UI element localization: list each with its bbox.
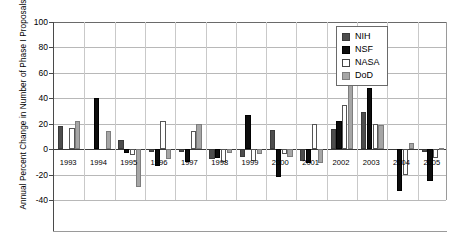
bar-nasa-2000 bbox=[282, 149, 287, 154]
legend-item-nih[interactable]: NIH bbox=[342, 30, 380, 43]
bar-group bbox=[84, 22, 114, 200]
bar-nsf-2003 bbox=[367, 88, 372, 149]
y-tick-mark bbox=[49, 47, 53, 48]
x-tick-label: 1997 bbox=[181, 158, 198, 167]
bar-nsf-1994 bbox=[94, 98, 99, 149]
x-tick-label: 2001 bbox=[302, 158, 319, 167]
bar-dod-1995 bbox=[136, 149, 141, 187]
legend-item-nasa[interactable]: NASA bbox=[342, 56, 380, 69]
bar-group bbox=[418, 22, 448, 200]
group-separator bbox=[327, 22, 328, 200]
x-tick-label: 1996 bbox=[151, 158, 168, 167]
x-tick-label: 1993 bbox=[60, 158, 77, 167]
x-tick-label: 1994 bbox=[90, 158, 107, 167]
legend-label: NASA bbox=[355, 58, 380, 67]
bar-dod-2000 bbox=[287, 149, 292, 157]
bar-dod-1993 bbox=[75, 121, 80, 149]
chart-left-rule bbox=[53, 200, 54, 231]
y-tick-mark bbox=[49, 98, 53, 99]
legend-swatch-nih-icon bbox=[342, 33, 350, 41]
bar-nasa-1996 bbox=[160, 121, 165, 149]
group-separator bbox=[145, 22, 146, 200]
bar-dod-2005 bbox=[439, 148, 444, 150]
bar-group bbox=[54, 22, 84, 200]
x-tick-label: 2005 bbox=[423, 158, 440, 167]
y-tick-mark bbox=[49, 22, 53, 23]
bar-dod-1997 bbox=[196, 124, 201, 149]
bar-dod-1998 bbox=[227, 149, 232, 153]
bar-group bbox=[266, 22, 296, 200]
x-tick-label: 2002 bbox=[332, 158, 349, 167]
bar-nih-1995 bbox=[118, 140, 123, 149]
bar-nasa-2005 bbox=[433, 149, 438, 158]
bar-group bbox=[206, 22, 236, 200]
bar-nasa-1995 bbox=[130, 149, 135, 155]
x-tick-label: 2000 bbox=[272, 158, 289, 167]
group-separator bbox=[296, 22, 297, 200]
bar-nih-1996 bbox=[149, 149, 154, 152]
y-axis-title: Annual Percent Change in Number of Phase… bbox=[19, 0, 28, 212]
bar-dod-1994 bbox=[106, 131, 111, 149]
bar-dod-1999 bbox=[257, 149, 262, 154]
legend-swatch-nsf-icon bbox=[342, 46, 350, 54]
x-tick-label: 2003 bbox=[363, 158, 380, 167]
y-tick-label: 40 bbox=[14, 93, 48, 103]
legend-label: DoD bbox=[355, 71, 373, 80]
legend-item-dod[interactable]: DoD bbox=[342, 69, 380, 82]
legend-swatch-dod-icon bbox=[342, 72, 350, 80]
group-separator bbox=[266, 22, 267, 200]
legend-item-nsf[interactable]: NSF bbox=[342, 43, 380, 56]
group-separator bbox=[175, 22, 176, 200]
bar-dod-2004 bbox=[409, 143, 414, 149]
y-tick-mark bbox=[49, 73, 53, 74]
group-separator bbox=[206, 22, 207, 200]
bar-nih-2000 bbox=[270, 130, 275, 149]
bar-nih-2003 bbox=[361, 112, 366, 149]
bar-nsf-2002 bbox=[336, 121, 341, 149]
y-tick-label: -40 bbox=[14, 195, 48, 205]
y-tick-mark bbox=[49, 175, 53, 176]
group-separator bbox=[84, 22, 85, 200]
bar-group bbox=[387, 22, 417, 200]
bar-group bbox=[145, 22, 175, 200]
bar-group bbox=[115, 22, 145, 200]
y-tick-label: 20 bbox=[14, 119, 48, 129]
x-tick-label: 1995 bbox=[120, 158, 137, 167]
bar-nih-1993 bbox=[58, 126, 63, 149]
chart-bottom-rule bbox=[53, 231, 447, 232]
x-tick-label: 1998 bbox=[211, 158, 228, 167]
y-tick-label: 80 bbox=[14, 42, 48, 52]
legend-label: NIH bbox=[355, 32, 371, 41]
gridline--40 bbox=[54, 200, 446, 201]
y-tick-label: 0 bbox=[14, 144, 48, 154]
bar-nasa-2001 bbox=[312, 124, 317, 149]
group-separator bbox=[387, 22, 388, 200]
group-separator bbox=[236, 22, 237, 200]
bar-nih-1999 bbox=[240, 149, 245, 157]
bar-nsf-2004 bbox=[397, 149, 402, 191]
bar-nasa-1993 bbox=[69, 128, 74, 150]
bar-chart: Annual Percent Change in Number of Phase… bbox=[0, 0, 452, 245]
bar-nsf-1999 bbox=[245, 115, 250, 149]
legend-swatch-nasa-icon bbox=[342, 59, 350, 67]
bar-nih-2002 bbox=[331, 129, 336, 149]
y-tick-label: 100 bbox=[14, 17, 48, 27]
bar-nih-2005 bbox=[422, 149, 427, 152]
y-tick-label: 60 bbox=[14, 68, 48, 78]
legend: NIHNSFNASADoD bbox=[336, 26, 388, 86]
bar-nsf-1995 bbox=[124, 149, 129, 153]
y-tick-label: -20 bbox=[14, 170, 48, 180]
legend-label: NSF bbox=[355, 45, 373, 54]
group-separator bbox=[418, 22, 419, 200]
x-tick-label: 2004 bbox=[393, 158, 410, 167]
bar-group bbox=[236, 22, 266, 200]
bar-dod-2003 bbox=[378, 125, 383, 149]
bar-nih-1997 bbox=[179, 149, 184, 152]
group-separator bbox=[115, 22, 116, 200]
bar-nasa-2003 bbox=[373, 124, 378, 149]
y-tick-mark bbox=[49, 124, 53, 125]
bar-nasa-1997 bbox=[191, 131, 196, 149]
bar-group bbox=[296, 22, 326, 200]
bar-nsf-1998 bbox=[215, 149, 220, 158]
plot-area bbox=[53, 22, 447, 200]
